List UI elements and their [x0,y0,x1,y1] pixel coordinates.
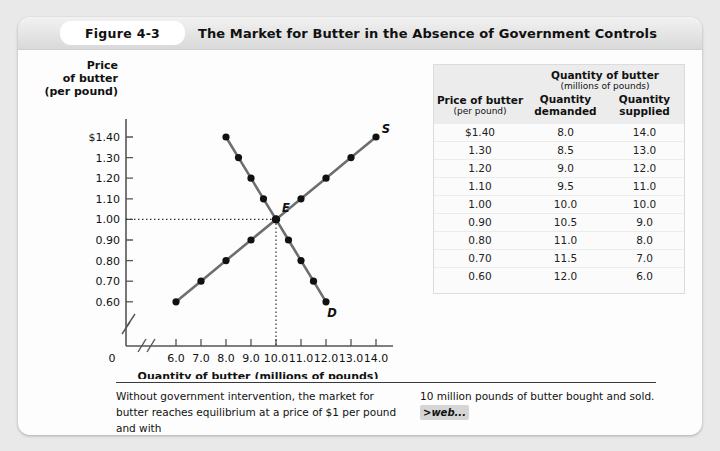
data-point-supply-7 [347,154,354,161]
figure-caption: Without government intervention, the mar… [116,389,661,435]
span-header-subtitle: (millions of pounds) [526,81,684,92]
cell-price: 0.70 [434,249,526,267]
table-body: $1.408.014.01.308.513.01.209.012.01.109.… [434,123,684,285]
table-span-spacer [434,65,526,93]
column-header-price-line2: (per pound) [434,106,526,117]
table-span-header: Quantity of butter (millions of pounds) [526,65,684,93]
data-point-supply-1 [197,278,204,285]
cell-price: 1.10 [434,177,526,195]
data-point-supply-6 [322,175,329,182]
quantity-table: Quantity of butter (millions of pounds) … [433,64,685,294]
data-point-demand-6 [297,257,304,264]
table-head: Quantity of butter (millions of pounds) … [434,65,684,123]
x-tick-label-8.0: 8.0 [217,352,235,365]
x-tick-label-14.0: 14.0 [364,352,389,365]
data-point-demand-0 [222,133,229,140]
cell-price: $1.40 [434,123,526,141]
cell-supplied: 11.0 [605,177,684,195]
table-row: 1.209.012.0 [434,159,684,177]
column-header-supplied-line2: supplied [605,105,684,117]
table-row: 0.8011.08.0 [434,231,684,249]
y-axis-break-mark-1 [127,314,135,326]
chart-svg: $1.401.301.201.101.000.900.800.700.606.0… [18,49,418,379]
x-tick-label-11.0: 11.0 [289,352,314,365]
cell-demanded: 10.0 [526,195,605,213]
span-header-title: Quantity of butter [526,69,684,81]
table-row: 0.6012.06.0 [434,267,684,285]
column-header-demanded-line2: demanded [526,105,605,117]
column-header-supplied-line1: Quantity [605,93,684,105]
equilibrium-point [272,215,280,223]
y-tick-label-1.20: 1.20 [96,172,121,185]
y-tick-label-0.70: 0.70 [96,275,121,288]
cell-price: 0.60 [434,267,526,285]
cell-demanded: 10.5 [526,213,605,231]
cell-supplied: 13.0 [605,141,684,159]
x-tick-label-10.0: 10.0 [264,352,289,365]
cell-supplied: 9.0 [605,213,684,231]
y-axis-title-line-2: (per pound) [44,85,118,98]
data-point-supply-5 [297,195,304,202]
y-axis-title-line-0: Price [87,59,118,72]
caption-column-1: Without government intervention, the mar… [116,389,408,435]
table-row: 1.109.511.0 [434,177,684,195]
y-tick-label-1.30: 1.30 [96,152,121,165]
cell-price: 1.00 [434,195,526,213]
data-point-demand-3 [260,195,267,202]
data-point-supply-2 [222,257,229,264]
data-point-supply-0 [172,298,179,305]
table-row: 0.9010.59.0 [434,213,684,231]
cell-demanded: 11.5 [526,249,605,267]
x-tick-label-9.0: 9.0 [242,352,260,365]
data-point-demand-8 [322,298,329,305]
y-axis-title-line-1: of butter [63,72,119,85]
x-tick-label-13.0: 13.0 [339,352,364,365]
data-point-demand-7 [310,278,317,285]
column-header-price: Price of butter (per pound) [434,93,526,123]
y-tick-label-$1.40: $1.40 [89,131,121,144]
cell-demanded: 9.0 [526,159,605,177]
supply-demand-chart: $1.401.301.201.101.000.900.800.700.606.0… [18,49,418,379]
cell-supplied: 6.0 [605,267,684,285]
origin-label: 0 [109,352,116,365]
data-point-demand-2 [247,175,254,182]
y-tick-label-0.60: 0.60 [96,296,121,309]
cell-demanded: 8.5 [526,141,605,159]
web-link-badge[interactable]: >web... [420,405,469,420]
figure-number-badge: Figure 4-3 [60,21,185,45]
figure-header-bar: Figure 4-3 The Market for Butter in the … [18,17,702,50]
y-tick-label-1.10: 1.10 [96,193,121,206]
figure-card: Figure 4-3 The Market for Butter in the … [18,17,702,435]
caption-column-2-text: 10 million pounds of butter bought and s… [420,390,654,402]
cell-price: 0.80 [434,231,526,249]
curve-label-supply: S [382,122,390,136]
figure-title: The Market for Butter in the Absence of … [198,21,657,45]
column-header-price-line1: Price of butter [434,94,526,106]
cell-price: 1.30 [434,141,526,159]
x-tick-label-7.0: 7.0 [192,352,210,365]
cell-supplied: 10.0 [605,195,684,213]
x-axis-title: Quantity of butter (millions of pounds) [138,370,379,379]
data-point-supply-8 [372,133,379,140]
table-element: Quantity of butter (millions of pounds) … [434,65,684,285]
cell-demanded: 9.5 [526,177,605,195]
x-tick-label-12.0: 12.0 [314,352,339,365]
y-tick-label-1.00: 1.00 [96,213,121,226]
caption-column-2: 10 million pounds of butter bought and s… [420,389,660,435]
equilibrium-label: E [282,201,290,215]
cell-demanded: 11.0 [526,231,605,249]
cell-demanded: 8.0 [526,123,605,141]
cell-supplied: 14.0 [605,123,684,141]
data-point-demand-1 [235,154,242,161]
cell-price: 1.20 [434,159,526,177]
column-header-demanded: Quantity demanded [526,93,605,123]
curve-label-demand: D [327,306,337,320]
caption-divider [116,382,656,383]
column-header-demanded-line1: Quantity [526,93,605,105]
column-header-supplied: Quantity supplied [605,93,684,123]
table-row: $1.408.014.0 [434,123,684,141]
cell-price: 0.90 [434,213,526,231]
table-row: 1.308.513.0 [434,141,684,159]
y-tick-label-0.90: 0.90 [96,234,121,247]
cell-supplied: 7.0 [605,249,684,267]
